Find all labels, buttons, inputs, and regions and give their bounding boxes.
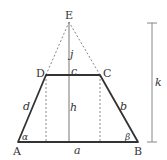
height-label-j: j [67, 48, 74, 61]
side-label-c: c [71, 65, 77, 78]
side-label-b: b [120, 100, 127, 113]
vertex-label-d: D [36, 67, 45, 80]
side-label-a: a [74, 144, 81, 157]
trapezoid-diagram: E D C A B c d b a j h k α β [0, 0, 167, 160]
dashed-line-de [46, 22, 69, 75]
side-label-d: d [23, 100, 30, 113]
angle-label-beta: β [124, 132, 130, 142]
height-label-h: h [70, 101, 77, 114]
angle-label-alpha: α [22, 132, 28, 142]
vertex-label-b: B [134, 145, 142, 158]
vertex-label-a: A [12, 145, 22, 158]
vertex-label-e: E [65, 9, 73, 22]
height-label-k: k [155, 76, 162, 89]
vertex-label-c: C [103, 67, 111, 80]
